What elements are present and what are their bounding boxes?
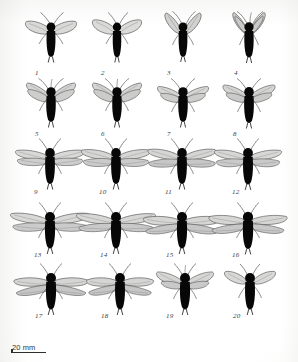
- specimen-11: [144, 138, 220, 192]
- scale-bar-label: 20 mm: [12, 344, 35, 352]
- cerci-1: [48, 57, 54, 63]
- body-20: [245, 273, 255, 309]
- specimen-20: [216, 263, 284, 317]
- cerci-6: [114, 122, 119, 128]
- body-16: [243, 212, 253, 249]
- specimen-1: [20, 11, 82, 67]
- specimen-label-3: 3: [167, 70, 171, 77]
- body-17: [46, 273, 56, 310]
- specimen-label-2: 2: [101, 70, 105, 77]
- body-14: [111, 212, 121, 249]
- body-6: [112, 87, 122, 122]
- body-15: [177, 212, 187, 249]
- specimen-label-8: 8: [233, 131, 237, 138]
- cerci-5: [48, 122, 53, 128]
- cerci-15: [179, 248, 185, 254]
- specimen-label-15: 15: [166, 252, 173, 259]
- body-4: [244, 22, 253, 57]
- specimen-16: [206, 202, 290, 256]
- cerci-4: [246, 57, 251, 63]
- specimen-18: [82, 263, 158, 317]
- body-7: [178, 87, 188, 122]
- specimen-label-9: 9: [34, 189, 38, 196]
- cerci-16: [245, 249, 251, 255]
- specimen-label-18: 18: [101, 313, 108, 320]
- specimen-plate: 1 2: [0, 0, 298, 362]
- body-1: [47, 22, 56, 56]
- scale-bar-line: [12, 352, 46, 353]
- body-2: [113, 23, 122, 58]
- scale-bar-tick-left: [12, 349, 13, 353]
- cerci-7: [180, 122, 185, 128]
- specimen-label-10: 10: [99, 189, 106, 196]
- specimen-label-12: 12: [232, 189, 239, 196]
- specimen-5: [18, 78, 84, 130]
- body-9: [45, 148, 55, 184]
- body-12: [243, 148, 253, 184]
- specimen-8: [216, 78, 282, 130]
- specimen-9: [12, 138, 88, 192]
- cerci-14: [113, 248, 119, 254]
- body-18: [115, 273, 125, 309]
- specimen-12: [210, 138, 286, 192]
- specimen-label-17: 17: [35, 313, 42, 320]
- scale-bar: 20 mm: [12, 344, 35, 354]
- specimen-2: [86, 11, 148, 67]
- cerci-19: [182, 309, 188, 315]
- specimen-19: [150, 263, 220, 317]
- specimen-4: [218, 11, 280, 67]
- specimen-3: [152, 11, 214, 67]
- body-5: [46, 87, 56, 122]
- body-11: [177, 148, 187, 184]
- specimen-10: [78, 138, 154, 192]
- cerci-3: [181, 57, 186, 63]
- cerci-12: [245, 184, 251, 190]
- cerci-2: [115, 57, 119, 63]
- specimen-label-5: 5: [35, 131, 39, 138]
- specimen-6: [84, 78, 150, 130]
- scale-bar-tick-right: [11, 349, 12, 353]
- cerci-18: [117, 309, 123, 315]
- body-19: [180, 273, 190, 310]
- cerci-17: [48, 309, 54, 315]
- specimen-label-6: 6: [101, 131, 105, 138]
- cerci-10: [113, 184, 119, 190]
- body-13: [45, 212, 55, 249]
- cerci-11: [179, 184, 185, 190]
- specimen-label-16: 16: [232, 252, 239, 259]
- specimen-label-14: 14: [100, 252, 107, 259]
- cerci-8: [246, 123, 251, 129]
- specimen-7: [150, 78, 216, 130]
- specimen-label-19: 19: [166, 313, 173, 320]
- specimen-label-1: 1: [35, 70, 39, 77]
- body-8: [244, 87, 254, 123]
- specimen-label-11: 11: [165, 189, 172, 196]
- specimen-label-7: 7: [167, 131, 171, 138]
- cerci-20: [247, 309, 253, 315]
- specimen-label-13: 13: [34, 252, 41, 259]
- body-3: [179, 23, 188, 57]
- cerci-9: [47, 184, 53, 190]
- body-10: [111, 148, 121, 184]
- specimen-17: [10, 263, 92, 317]
- specimen-label-20: 20: [233, 313, 240, 320]
- specimen-label-4: 4: [234, 70, 238, 77]
- cerci-13: [47, 248, 53, 254]
